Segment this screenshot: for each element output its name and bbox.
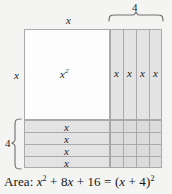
- caption-constant: 16: [88, 174, 101, 189]
- caption-plus-1: +: [50, 174, 57, 189]
- caption-prefix: Area:: [4, 174, 33, 189]
- top-brace-icon: [108, 12, 164, 22]
- strip-label-3: x: [140, 68, 145, 79]
- row-label-2: x: [64, 134, 69, 145]
- caption-plus-2: +: [77, 174, 84, 189]
- figure-caption: Area: x2 + 8x + 16 = (x + 4)2: [4, 174, 155, 190]
- top-brace-label: 4: [132, 2, 138, 13]
- strip-label-4: x: [153, 68, 158, 79]
- caption-plus-3: +: [129, 174, 136, 189]
- left-side-label: x: [14, 70, 19, 81]
- row-divider-2: [24, 144, 162, 145]
- top-side-label: x: [66, 15, 71, 26]
- caption-exp-1: 2: [43, 174, 47, 183]
- left-brace-label: 4: [5, 138, 11, 149]
- left-brace-icon: [12, 118, 22, 170]
- strip-divider-1: [123, 29, 124, 168]
- x-squared-exponent: 2: [65, 67, 69, 75]
- row-divider-3: [24, 156, 162, 157]
- caption-exp-2: 2: [150, 174, 154, 183]
- caption-var-3: x: [119, 174, 125, 189]
- row-divider-1: [24, 132, 162, 133]
- x-squared-label: x2: [60, 68, 68, 80]
- row-label-1: x: [64, 122, 69, 133]
- square-right-edge: [110, 29, 111, 168]
- strip-label-2: x: [127, 68, 132, 79]
- strip-divider-2: [136, 29, 137, 168]
- row-label-4: x: [64, 158, 69, 169]
- algebra-tile-figure: x x x2 x x x x x x x x 4 4 Area: x2 + 8x…: [0, 0, 172, 194]
- strip-label-1: x: [114, 68, 119, 79]
- caption-four: 4: [139, 174, 146, 189]
- row-divider-0: [24, 120, 162, 121]
- caption-equals: =: [104, 174, 111, 189]
- row-label-3: x: [64, 146, 69, 157]
- caption-var-2: x: [67, 174, 73, 189]
- strip-divider-3: [149, 29, 150, 168]
